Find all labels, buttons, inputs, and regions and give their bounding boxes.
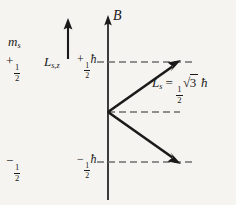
lsz-projection-arrow xyxy=(64,18,73,59)
ms-upper-denominator: 2 xyxy=(14,74,20,83)
tick-lower-hbar: ħ xyxy=(91,152,97,166)
ms-upper-sign: + xyxy=(6,53,13,68)
ls-magnitude-label: Ls=12√3ħ xyxy=(152,76,207,105)
ls-coefficient-denominator: 2 xyxy=(176,96,182,105)
ms-lower-fraction: 12 xyxy=(14,163,20,182)
b-axis-label: B xyxy=(113,9,122,23)
ls-square-root: √3 xyxy=(183,76,198,89)
lsz-subscript: s,z xyxy=(51,61,59,70)
ls-equals-sign: = xyxy=(165,75,172,90)
ms-upper-numerator: 1 xyxy=(14,63,20,73)
b-axis xyxy=(104,15,112,200)
tick-lower-sign: − xyxy=(77,152,84,166)
ls-hbar: ħ xyxy=(201,75,208,90)
tick-lower-fraction: 12 xyxy=(84,162,90,180)
lsz-label: Ls,z xyxy=(44,55,60,70)
tick-lower-denominator: 2 xyxy=(84,171,90,179)
tick-upper-hbar: ħ xyxy=(91,52,97,66)
ms-value-lower: −12 xyxy=(6,154,21,183)
ms-lower-denominator: 2 xyxy=(14,174,20,183)
ms-lower-sign: − xyxy=(6,153,13,168)
ls-radicand: 3 xyxy=(190,74,198,90)
ms-subscript: s xyxy=(17,41,20,50)
tick-label-lower: −12ħ xyxy=(77,153,97,180)
ms-column-label: ms xyxy=(8,35,21,50)
tick-upper-denominator: 2 xyxy=(84,71,90,79)
ms-symbol: m xyxy=(8,34,17,49)
tick-label-upper: +12ħ xyxy=(77,53,97,80)
tick-upper-fraction: 12 xyxy=(84,62,90,80)
ms-upper-fraction: 12 xyxy=(14,63,20,82)
spin-down-vector xyxy=(108,112,181,164)
ls-coefficient-numerator: 1 xyxy=(176,85,182,95)
spin-vector-diagram: ms +12 −12 Ls,z B +12ħ −12ħ Ls=12√3ħ xyxy=(0,0,236,205)
ms-value-upper: +12 xyxy=(6,54,21,83)
ms-lower-numerator: 1 xyxy=(14,163,20,173)
ls-subscript: s xyxy=(159,82,162,91)
spin-down-vector-shaft xyxy=(108,112,173,158)
ls-coefficient-fraction: 12 xyxy=(176,85,182,104)
tick-upper-sign: + xyxy=(77,52,84,66)
